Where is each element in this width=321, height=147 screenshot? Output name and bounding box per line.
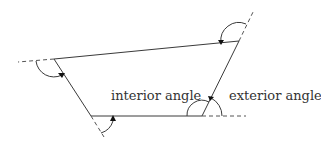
extension-top-right bbox=[239, 10, 254, 41]
exterior-arc-bottom-left bbox=[101, 121, 113, 133]
exterior-arc-bottom-right bbox=[211, 98, 222, 116]
edge-left bbox=[54, 59, 91, 116]
edge-top bbox=[54, 41, 239, 59]
arrowhead-icon bbox=[208, 96, 214, 101]
interior-angle-label: interior angle bbox=[111, 88, 202, 103]
exterior-arc-top-left bbox=[36, 61, 62, 77]
quadrilateral-angle-diagram: interior angle exterior angle bbox=[0, 0, 321, 147]
arrowhead-icon bbox=[58, 73, 65, 78]
side-extensions bbox=[18, 10, 254, 137]
exterior-arc-top-right bbox=[221, 23, 246, 43]
polygon-edges bbox=[54, 41, 239, 116]
edge-right bbox=[202, 41, 239, 116]
extension-bottom-left bbox=[91, 116, 104, 137]
exterior-angle-label: exterior angle bbox=[229, 88, 321, 103]
